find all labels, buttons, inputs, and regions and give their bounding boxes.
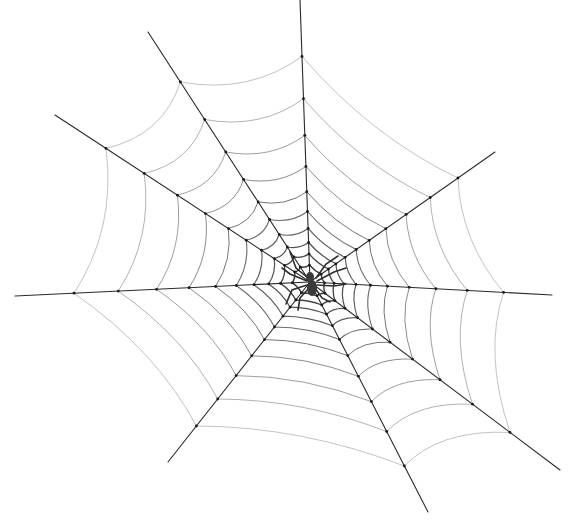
web-knot [509, 431, 512, 434]
web-ring-segment [74, 293, 196, 426]
web-ring-segment [387, 404, 473, 432]
web-knot [155, 288, 158, 291]
web-ring-segment [430, 198, 467, 291]
web-ring-segment [254, 250, 262, 284]
web-knot [466, 289, 469, 292]
web-ring-segment [384, 286, 390, 342]
web-ring-segment [292, 272, 295, 283]
web-ring-segment [294, 254, 309, 258]
web-ring-segment [308, 212, 357, 250]
web-knot [308, 264, 311, 267]
web-knot [235, 374, 238, 377]
web-knot [355, 283, 358, 286]
web-ring-segment [290, 307, 326, 314]
web-ring-segment [216, 229, 230, 287]
web-ring-segment [404, 432, 510, 466]
web-ring-segment [406, 214, 436, 288]
web-knot [289, 306, 292, 309]
web-knot [278, 233, 281, 236]
web-ring-segment [340, 329, 373, 340]
web-knot [323, 281, 326, 284]
web-knot [439, 378, 442, 381]
web-knot [302, 97, 305, 100]
web-knot [273, 257, 276, 260]
web-ring-segment [358, 359, 412, 376]
web-ring-segment [236, 286, 274, 328]
spider-leg [317, 284, 346, 286]
web-knot [502, 291, 505, 294]
web-knot [267, 283, 270, 286]
web-spoke-down-left [168, 282, 310, 462]
web-knot [273, 326, 276, 329]
web-ring-segment [332, 318, 357, 326]
web-ring-segment [189, 288, 252, 356]
web-knot [299, 266, 302, 269]
web-knot [389, 341, 392, 344]
web-knot [305, 165, 308, 168]
web-knot [324, 292, 327, 295]
web-ring-segment [196, 426, 404, 466]
web-ring-segment [371, 380, 440, 402]
web-knot [344, 256, 347, 259]
web-knot [283, 264, 286, 267]
web-ring-segment [460, 290, 472, 404]
web-knot [384, 227, 387, 230]
web-knot [307, 241, 310, 244]
web-ring-segment [369, 240, 387, 286]
web-knot [305, 190, 308, 193]
web-knot [369, 284, 372, 287]
web-knot [471, 403, 474, 406]
web-ring-segment [305, 135, 406, 214]
web-knot [346, 354, 349, 357]
web-ring-segment [348, 342, 390, 356]
web-knot [263, 338, 266, 341]
web-knot [371, 328, 374, 331]
web-knot [457, 177, 460, 180]
web-ring-segment [106, 82, 180, 148]
web-knot [282, 315, 285, 318]
web-ring-segment [226, 135, 305, 154]
web-ring-segment [258, 192, 307, 204]
web-knot [327, 268, 330, 271]
web-ring-segment [304, 99, 431, 198]
web-ring-segment [216, 286, 265, 339]
web-ring-segment [283, 316, 332, 326]
web-ring-segment [180, 56, 302, 85]
web-spoke-up [300, 0, 310, 282]
web-ring-segment [270, 212, 308, 221]
web-knot [356, 316, 359, 319]
web-knot [294, 299, 297, 302]
web-knot [268, 218, 271, 221]
web-ring-segment [495, 292, 510, 432]
web-knot [216, 398, 219, 401]
web-ring-segment [386, 229, 409, 288]
web-ring-segment [189, 214, 206, 288]
web-knot [245, 239, 248, 242]
web-ring-segment [368, 285, 373, 329]
web-ring-segment [329, 269, 335, 283]
web-ring-segment [118, 291, 217, 399]
web-knot [355, 248, 358, 251]
web-ring-segment [218, 399, 387, 432]
web-ring-segment [308, 228, 345, 257]
web-knot [306, 210, 309, 213]
web-ring-segment [458, 178, 504, 292]
web-ring-segment [246, 220, 269, 241]
web-knot [368, 239, 371, 242]
web-knot [408, 286, 411, 289]
web-knot [143, 172, 146, 175]
web-ring-segment [205, 180, 243, 214]
web-ring-segment [262, 235, 280, 251]
spider-leg [298, 288, 309, 310]
web-knot [105, 147, 108, 150]
web-ring-segment [144, 120, 204, 174]
web-ring-segment [307, 192, 369, 241]
web-rings [74, 56, 510, 466]
web-knot [385, 430, 388, 433]
web-knot [333, 282, 336, 285]
web-knot [73, 292, 76, 295]
web-knot [188, 286, 191, 289]
web-knot [204, 212, 207, 215]
web-ring-segment [275, 327, 340, 340]
web-knot [257, 201, 260, 204]
